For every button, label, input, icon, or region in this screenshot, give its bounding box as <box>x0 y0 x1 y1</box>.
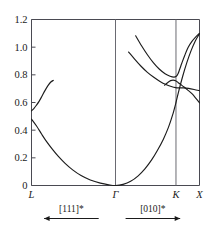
x-tick-label: Γ <box>112 189 120 200</box>
y-tick-label: 0.8 <box>14 69 27 80</box>
direction-label: [010]* <box>140 204 166 214</box>
x-axis-tick-labels: LΓKX <box>28 189 204 200</box>
y-tick-label: 0.4 <box>14 125 28 136</box>
y-axis-tick-labels: 00.20.40.60.81.01.2 <box>14 14 28 191</box>
band-curve-right-lower-branch <box>165 80 200 103</box>
y-tick-label: 1.0 <box>14 42 27 53</box>
x-tick-label: X <box>195 189 203 200</box>
direction-annotation: [111]* <box>44 204 99 222</box>
x-tick-label: L <box>28 189 35 200</box>
band-curve-left-optic-branch <box>32 80 54 110</box>
y-tick-label: 0.6 <box>14 97 27 108</box>
band-structure-chart: 00.20.40.60.81.01.2 LΓKX [111]*[010]* <box>0 0 212 228</box>
arrow-head-right-icon <box>175 216 181 221</box>
band-dispersion-plot: 00.20.40.60.81.01.2 LΓKX [111]*[010]* <box>0 0 212 228</box>
y-tick-label: 0 <box>22 180 27 191</box>
y-axis-ticks <box>32 20 36 186</box>
direction-annotation: [010]* <box>126 204 181 222</box>
symmetry-point-lines <box>116 20 176 186</box>
arrow-head-left-icon <box>44 216 50 221</box>
direction-label: [111]* <box>59 204 84 214</box>
y-tick-label: 1.2 <box>14 14 27 25</box>
y-tick-label: 0.2 <box>14 152 27 163</box>
x-tick-label: K <box>171 189 180 200</box>
direction-annotations: [111]*[010]* <box>44 204 180 222</box>
